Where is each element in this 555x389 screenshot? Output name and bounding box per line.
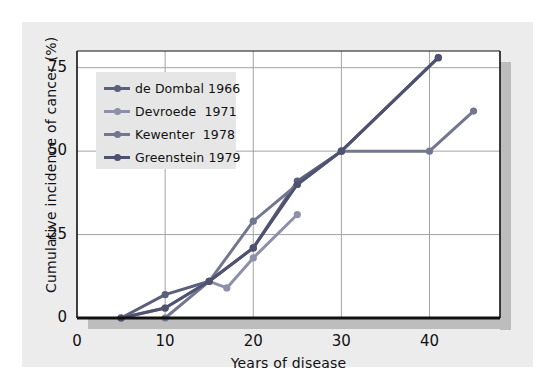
legend-item-1[interactable]: Devroede 1971 [104,100,237,123]
x-tick-10: 10 [150,332,180,350]
legend-marker-icon [104,106,130,117]
legend-marker-icon [104,152,130,163]
y-axis-title: Cumulative incidence of cancer (%) [43,63,59,293]
legend-label: Devroede 1971 [135,104,237,119]
data-point [294,181,301,188]
x-axis-title: Years of disease [77,355,500,371]
y-tick-0: 0 [37,308,67,326]
data-point [250,218,257,225]
data-point [162,304,169,311]
figure-canvas: 0255075 010203040 Cumulative incidence o… [0,0,555,389]
line-chart-svg [0,0,555,389]
data-point [162,291,169,298]
legend-item-0[interactable]: de Dombal 1966 [104,77,240,100]
legend-marker-icon [104,83,130,94]
legend-item-3[interactable]: Greenstein 1979 [104,146,241,169]
data-point [294,211,301,218]
data-point [206,278,213,285]
legend-label: de Dombal 1966 [135,81,240,96]
x-tick-20: 20 [238,332,268,350]
legend-label: Greenstein 1979 [135,150,241,165]
chart-legend: de Dombal 1966Devroede 1971Kewenter 1978… [96,72,236,169]
legend-label: Kewenter 1978 [135,127,235,142]
x-tick-30: 30 [326,332,356,350]
data-point [435,54,442,61]
data-point [338,148,345,155]
data-point [470,107,477,114]
x-tick-0: 0 [62,332,92,350]
data-point [250,254,257,261]
data-point [223,284,230,291]
data-point [426,148,433,155]
legend-item-2[interactable]: Kewenter 1978 [104,123,235,146]
legend-marker-icon [104,129,130,140]
data-point [250,244,257,251]
x-tick-40: 40 [415,332,445,350]
